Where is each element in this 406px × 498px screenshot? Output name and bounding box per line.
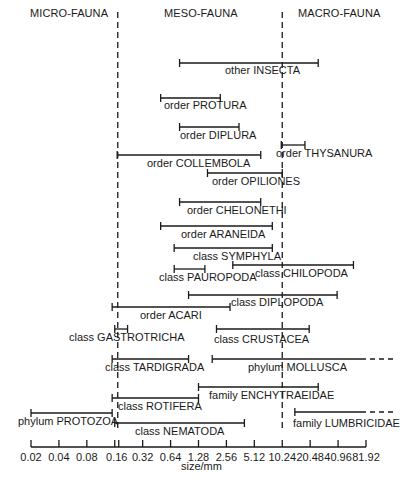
group-label: order OPILIONES: [212, 175, 300, 187]
tick-label: 5.12: [244, 451, 265, 463]
tick-label: 10.24: [268, 451, 296, 463]
tick-label: 0.32: [132, 451, 153, 463]
tick-label: 81.92: [352, 451, 380, 463]
group-label: phylum PROTOZOA: [18, 415, 118, 427]
group-label: class GASTROTRICHA: [69, 331, 185, 343]
tick-label: 0.02: [20, 451, 41, 463]
group-label: class CRUSTACEA: [214, 333, 309, 345]
group-label: order ARANEIDA: [181, 228, 265, 240]
group-label: order THYSANURA: [276, 147, 372, 159]
tick-label: 0.64: [160, 451, 181, 463]
group-label: class NEMATODA: [135, 425, 224, 437]
group-label: order ACARI: [140, 309, 202, 321]
group-label: order DIPLURA: [180, 129, 256, 141]
group-label: phylum MOLLUSCA: [248, 361, 347, 373]
axis-label: size/mm: [181, 460, 222, 472]
group-label: class PAUROPODA: [159, 271, 257, 283]
tick-label: 0.16: [106, 451, 127, 463]
group-label: order CHELONETHI: [187, 204, 287, 216]
group-label: family ENCHYTRAEIDAE: [209, 389, 334, 401]
group-label: other INSECTA: [225, 64, 300, 76]
group-label: order COLLEMBOLA: [147, 157, 250, 169]
group-label: class ROTIFERA: [118, 400, 202, 412]
group-label: order PROTURA: [164, 99, 247, 111]
tick-label: 0.08: [76, 451, 97, 463]
group-label: family LUMBRICIDAE: [293, 417, 400, 429]
group-label: class CHILOPODA: [255, 267, 348, 279]
group-label: class DIPLOPODA: [231, 296, 323, 308]
soil-fauna-size-chart: MICRO-FAUNA MESO-FAUNA MACRO-FAUNA other…: [0, 0, 406, 498]
group-label: class SYMPHYLA: [193, 250, 281, 262]
tick-label: 20.48: [296, 451, 324, 463]
tick-label: 40.96: [324, 451, 352, 463]
group-label: class TARDIGRADA: [105, 361, 204, 373]
tick-label: 0.04: [48, 451, 69, 463]
